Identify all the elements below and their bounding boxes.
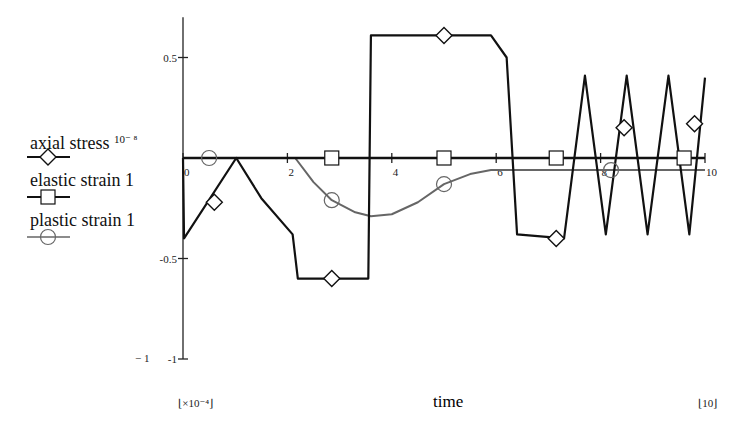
y-tick-label: 0.5 [163, 52, 177, 64]
series-line-plastic-strain [183, 158, 705, 216]
diamond-marker-icon [324, 271, 340, 287]
square-marker-icon [677, 151, 691, 165]
diamond-marker-icon [206, 194, 222, 210]
x-axis-label: time [433, 392, 463, 412]
square-marker-icon [549, 151, 563, 165]
x-tick-label: 4 [393, 166, 399, 178]
diamond-marker-icon [436, 27, 452, 43]
x-tick-label: 2 [288, 166, 294, 178]
square-marker-icon [325, 151, 339, 165]
square-marker-icon [41, 190, 55, 204]
x-scale-note: ⌊×10⁻⁴⌋ [178, 397, 213, 410]
x-tick-label: 6 [497, 166, 503, 178]
x-tick-label: 0 [184, 166, 190, 178]
x-end-label: ⌊10⌋ [698, 397, 718, 410]
square-marker-icon [437, 151, 451, 165]
x-tick-label: 10 [706, 166, 718, 178]
y-tick-label: -0.5 [160, 253, 178, 265]
legend-label-plastic-strain: plastic strain 1 [30, 210, 135, 231]
y-min-label: − 1 [135, 352, 149, 364]
diamond-marker-icon [548, 230, 564, 246]
y-tick-label: -1 [168, 353, 177, 365]
legend-scale: 10⁻ ⁸ [114, 133, 137, 145]
legend-label-elastic-strain: elastic strain 1 [30, 170, 134, 191]
legend-label-axial-stress: axial stress 10⁻ ⁸ [30, 133, 137, 154]
